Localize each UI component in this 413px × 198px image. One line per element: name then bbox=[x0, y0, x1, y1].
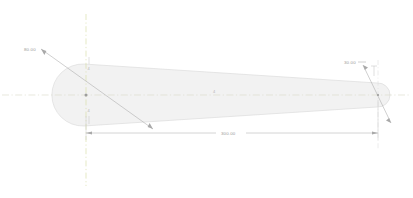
diameter-right-arrow-start bbox=[363, 65, 368, 70]
length-label: 300.00 bbox=[221, 131, 236, 136]
tapered-slot-shape[interactable] bbox=[52, 64, 390, 126]
diameter-left-arrow-end bbox=[148, 123, 153, 129]
diameter-left-label: 80.00 bbox=[24, 47, 36, 52]
drawing-svg: 80.00 30.00 300.00 bbox=[0, 0, 413, 198]
length-arrow-left bbox=[86, 132, 92, 135]
right-circle-center-point bbox=[377, 94, 379, 96]
cad-drawing-canvas[interactable]: 80.00 30.00 300.00 bbox=[0, 0, 413, 198]
length-arrow-right bbox=[372, 132, 378, 135]
slot-body bbox=[52, 64, 390, 126]
left-circle-center-point bbox=[85, 94, 88, 97]
diameter-left-arrow-start bbox=[41, 49, 46, 55]
diameter-right-label: 30.00 bbox=[344, 60, 356, 65]
diameter-right-arrow-end bbox=[386, 118, 391, 123]
